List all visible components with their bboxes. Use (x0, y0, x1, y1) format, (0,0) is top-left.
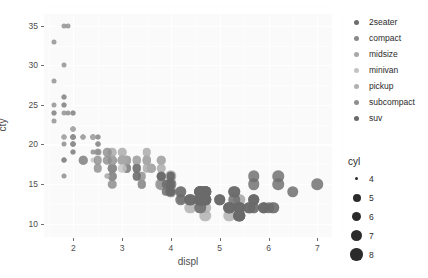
x-tick-label: 3 (120, 243, 125, 253)
data-point (105, 174, 110, 179)
legend-size-label: 7 (369, 231, 374, 241)
legend-item-2seater[interactable]: 2seater (348, 14, 415, 30)
data-point (61, 102, 66, 107)
y-tick-mark (41, 184, 44, 185)
data-point (51, 102, 56, 107)
data-point (234, 210, 246, 222)
data-point (71, 126, 76, 131)
x-tick-mark (269, 238, 270, 241)
x-tick-label: 5 (217, 243, 222, 253)
legend-size-item-4[interactable]: 4 (348, 169, 374, 188)
legend-size-item-7[interactable]: 7 (348, 226, 374, 245)
legend-size-item-5[interactable]: 5 (348, 188, 374, 207)
data-point (118, 164, 127, 173)
legend-item-midsize[interactable]: midsize (348, 46, 415, 62)
gridline (44, 224, 332, 225)
x-tick-mark (73, 238, 74, 241)
legend-swatch-icon (348, 68, 365, 73)
data-point (95, 142, 100, 147)
gridline (44, 105, 332, 106)
data-point (71, 150, 76, 155)
data-point (167, 188, 176, 197)
plot-panel (44, 14, 332, 237)
legend-class: 2seatercompactmidsizeminivanpickupsubcom… (348, 14, 415, 126)
legend-label: minivan (369, 65, 398, 75)
y-tick-label: 20 (29, 139, 38, 149)
data-point (229, 186, 241, 198)
data-point (95, 134, 100, 139)
legend-swatch-icon (348, 116, 365, 121)
legend-size-dot-icon (348, 248, 365, 261)
legend-item-subcompact[interactable]: subcompact (348, 94, 415, 110)
y-tick-mark (41, 65, 44, 66)
data-point (71, 134, 76, 139)
gridline (44, 85, 332, 86)
y-tick-label: 35 (29, 21, 38, 31)
legend-size-item-8[interactable]: 8 (348, 245, 374, 264)
data-point (108, 180, 117, 189)
legend-label: 2seater (369, 17, 397, 27)
gridline (317, 14, 318, 237)
data-point (61, 134, 66, 139)
legend-item-suv[interactable]: suv (348, 110, 415, 126)
legend-swatch-icon (348, 20, 365, 25)
gridline (44, 65, 332, 66)
data-point (132, 172, 141, 181)
x-tick-mark (171, 238, 172, 241)
y-tick-label: 30 (29, 60, 38, 70)
gridline (147, 14, 148, 237)
x-tick-label: 6 (266, 243, 271, 253)
gridline (171, 14, 172, 237)
data-point (103, 156, 112, 165)
legend-size-label: 5 (369, 193, 374, 203)
chart-root: 101520253035 cty 234567 displ 2seatercom… (0, 0, 428, 278)
gridline (44, 26, 332, 27)
gridline (342, 14, 343, 237)
y-tick-label: 10 (29, 219, 38, 229)
gridline (293, 14, 294, 237)
legend-swatch-icon (348, 100, 365, 105)
data-point (61, 110, 66, 115)
legend-swatch-icon (348, 36, 365, 41)
legend-item-compact[interactable]: compact (348, 30, 415, 46)
legend-title-cyl: cyl (348, 156, 374, 167)
legend-size-dot-icon (348, 177, 365, 180)
data-point (108, 164, 117, 173)
data-point (61, 142, 66, 147)
x-tick-label: 7 (315, 243, 320, 253)
gridline (44, 125, 332, 126)
legend-size-item-6[interactable]: 6 (348, 207, 374, 226)
data-point (243, 202, 255, 214)
data-point (71, 142, 76, 147)
data-point (51, 110, 56, 115)
data-point (268, 202, 280, 214)
gridline (49, 14, 50, 237)
legend-label: subcompact (369, 97, 415, 107)
x-tick-mark (122, 238, 123, 241)
x-tick-mark (317, 238, 318, 241)
gridline (122, 14, 123, 237)
data-point (61, 158, 66, 163)
legend-item-pickup[interactable]: pickup (348, 78, 415, 94)
y-tick-mark (41, 105, 44, 106)
gridline (98, 14, 99, 237)
legend-size-label: 4 (369, 174, 374, 184)
legend-size-label: 6 (369, 212, 374, 222)
data-point (94, 149, 101, 156)
legend-swatch-icon (348, 84, 365, 89)
y-tick-label: 25 (29, 100, 38, 110)
legend-size-dot-icon (348, 194, 365, 202)
legend-size-dot-icon (348, 230, 365, 241)
data-point (137, 180, 146, 189)
legend-item-minivan[interactable]: minivan (348, 62, 415, 78)
legend-label: compact (369, 33, 401, 43)
data-point (224, 202, 236, 214)
data-point (61, 174, 66, 179)
data-point (71, 110, 76, 115)
legend-swatch-icon (348, 52, 365, 57)
legend-size-dot-icon (348, 212, 365, 222)
y-tick-mark (41, 26, 44, 27)
x-tick-label: 4 (169, 243, 174, 253)
y-tick-mark (41, 144, 44, 145)
data-point (51, 39, 56, 44)
